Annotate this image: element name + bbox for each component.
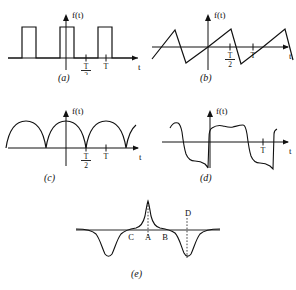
panel-e-point-label-b: B <box>162 232 168 242</box>
waveform-figure: T 2 T f(t) t (a) T 2 T f(t) t <box>0 0 296 290</box>
panel-a-x-axis-label: t <box>138 62 141 72</box>
panel-b-x-arrow <box>283 45 289 50</box>
panel-e: C A B D <box>68 196 228 268</box>
panel-d-y-arrow <box>207 110 213 117</box>
panel-d-x-axis-label: t <box>289 146 292 156</box>
panel-c-tick-label-numerator: T <box>84 152 89 161</box>
panel-a-y-arrow <box>63 14 69 21</box>
panel-c-y-axis-label: f(t) <box>72 106 84 116</box>
panel-c-x-axis-label: t <box>139 152 142 162</box>
panel-c: T 2 T f(t) t <box>0 96 148 174</box>
panel-c-x-arrow <box>133 146 139 151</box>
panel-d: T f(t) t <box>148 96 296 174</box>
panel-e-label: (e) <box>131 268 142 279</box>
panel-b-tick-label-denominator: 2 <box>228 60 232 69</box>
panel-b-label: (b) <box>200 72 212 83</box>
panel-a-tick-label-numerator: T <box>84 62 89 71</box>
panel-c-tick-label-denominator: 2 <box>84 161 88 170</box>
panel-d-x-arrow <box>283 140 289 145</box>
panel-d-tick-label-T: T <box>261 146 266 155</box>
panel-a: T 2 T f(t) t <box>0 0 148 75</box>
panel-d-label: (d) <box>200 172 212 183</box>
panel-b: T 2 T f(t) t <box>148 0 296 75</box>
panel-c-tick-label-T: T <box>104 152 109 161</box>
panel-c-label: (c) <box>44 172 55 183</box>
panel-b-tick-label-numerator: T <box>228 51 233 60</box>
panel-b-y-axis-label: f(t) <box>214 10 226 20</box>
panel-e-point-label-a: A <box>145 232 152 242</box>
panel-a-tick-label-denominator: 2 <box>84 71 88 75</box>
panel-a-waveform <box>8 27 132 58</box>
panel-a-y-axis-label: f(t) <box>72 10 84 20</box>
panel-a-x-arrow <box>132 56 138 61</box>
panel-e-point-label-d: D <box>185 208 191 218</box>
panel-a-label: (a) <box>58 72 70 83</box>
panel-d-y-axis-label: f(t) <box>216 106 228 116</box>
panel-a-tick-label-T: T <box>104 62 109 71</box>
panel-c-waveform <box>6 121 136 148</box>
panel-e-point-label-c: C <box>128 232 134 242</box>
panel-b-tick-label-T: T <box>251 51 256 60</box>
panel-b-y-arrow <box>205 14 211 21</box>
panel-c-y-arrow <box>63 110 69 117</box>
